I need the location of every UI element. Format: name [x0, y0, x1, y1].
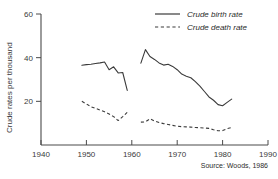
y-axis-ticks	[36, 14, 41, 101]
line-chart: 204060 194019501960197019801990 Crude ra…	[0, 0, 278, 179]
x-axis-tick-labels: 194019501960197019801990	[32, 150, 277, 159]
x-tick-label: 1990	[259, 150, 277, 159]
y-axis-label: Crude rates per thousand	[5, 42, 14, 133]
x-tick-label: 1980	[214, 150, 232, 159]
legend-label-crude-death-rate: Crude death rate	[187, 23, 248, 32]
x-tick-label: 1940	[32, 150, 50, 159]
x-tick-label: 1950	[78, 150, 96, 159]
chart-figure: 204060 194019501960197019801990 Crude ra…	[0, 0, 278, 179]
y-tick-label: 60	[24, 10, 33, 19]
legend-label-crude-birth-rate: Crude birth rate	[187, 10, 243, 19]
crude-death-rate-segment-1	[141, 119, 232, 131]
series-crude-death-rate	[82, 101, 232, 130]
crude-birth-rate-segment-1	[141, 50, 232, 106]
y-tick-label: 20	[24, 97, 33, 106]
y-tick-label: 40	[24, 54, 33, 63]
x-tick-label: 1960	[123, 150, 141, 159]
source-note: Source: Woods, 1986	[201, 162, 268, 169]
crude-death-rate-segment-0	[82, 101, 127, 120]
y-axis-tick-labels: 204060	[24, 10, 33, 106]
crude-birth-rate-segment-0	[82, 62, 127, 90]
series-crude-birth-rate	[82, 50, 232, 106]
chart-legend: Crude birth rate Crude death rate	[155, 10, 248, 32]
x-axis-ticks	[41, 140, 268, 145]
x-tick-label: 1970	[168, 150, 186, 159]
